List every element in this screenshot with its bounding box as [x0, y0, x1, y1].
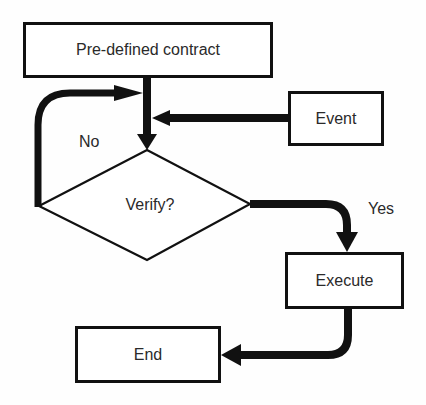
node-event: Event — [288, 91, 384, 146]
node-execute: Execute — [285, 252, 404, 309]
node-pre-defined-contract: Pre-defined contract — [23, 22, 273, 78]
no-loop-arrowhead — [114, 85, 143, 101]
edge-label-no: No — [79, 133, 99, 151]
contract-to-verify-arrowhead — [137, 134, 157, 150]
yes-connector — [250, 204, 347, 234]
node-pre-defined-contract-label: Pre-defined contract — [76, 41, 220, 59]
execute-to-end-arrowhead — [221, 344, 241, 366]
yes-arrowhead — [336, 232, 358, 252]
node-execute-label: Execute — [316, 272, 374, 290]
event-to-stem-shaft — [168, 114, 290, 122]
edge-label-yes: Yes — [368, 200, 394, 218]
node-end: End — [75, 326, 221, 383]
execute-to-end-connector — [238, 308, 348, 355]
node-end-label: End — [134, 346, 162, 364]
flowchart-canvas: Pre-defined contract Event Verify? Execu… — [0, 0, 426, 405]
node-verify-label: Verify? — [105, 196, 195, 214]
contract-to-verify-stem — [143, 76, 151, 136]
node-event-label: Event — [316, 110, 357, 128]
event-to-stem-arrowhead — [152, 110, 170, 126]
